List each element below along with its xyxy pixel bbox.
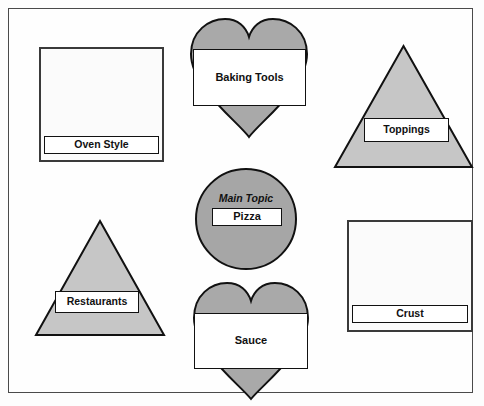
node-label-box-baking-tools[interactable]: Baking Tools (193, 49, 306, 106)
node-crust[interactable]: Crust (347, 220, 473, 332)
node-label-sauce: Sauce (235, 335, 267, 347)
node-label-crust: Crust (396, 308, 423, 319)
node-label-box-restaurants[interactable]: Restaurants (55, 291, 139, 313)
node-main-topic[interactable]: Main Topic Pizza (194, 167, 298, 271)
diagram-frame: Oven Style Baking Tools Toppings (8, 8, 473, 393)
node-baking-tools[interactable]: Baking Tools (187, 17, 311, 139)
node-label-restaurants: Restaurants (67, 296, 128, 307)
triangle-shape-icon (33, 218, 167, 338)
main-topic-caption: Main Topic (194, 192, 298, 204)
diagram-canvas: Oven Style Baking Tools Toppings (0, 0, 484, 406)
node-toppings[interactable]: Toppings (332, 43, 475, 170)
node-label-main-topic: Pizza (233, 211, 261, 223)
node-label-box-crust[interactable]: Crust (352, 305, 468, 323)
node-label-toppings: Toppings (383, 124, 429, 135)
node-label-box-main-topic[interactable]: Pizza (212, 208, 282, 226)
node-label-oven-style: Oven Style (74, 139, 128, 150)
triangle-shape-icon (332, 43, 475, 170)
node-label-box-toppings[interactable]: Toppings (364, 118, 449, 142)
node-label-baking-tools: Baking Tools (215, 72, 283, 84)
node-label-box-oven-style[interactable]: Oven Style (44, 136, 159, 154)
node-label-box-sauce[interactable]: Sauce (194, 313, 308, 369)
node-oven-style[interactable]: Oven Style (39, 47, 164, 162)
node-restaurants[interactable]: Restaurants (33, 218, 167, 338)
node-sauce[interactable]: Sauce (190, 281, 312, 401)
